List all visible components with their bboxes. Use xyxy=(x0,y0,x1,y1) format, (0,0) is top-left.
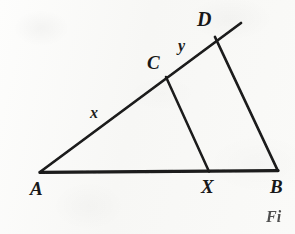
segment-length-label-x: x xyxy=(90,105,98,121)
segment-AD-ray xyxy=(40,23,241,172)
vertex-label-A: A xyxy=(30,179,43,198)
figure-line-art xyxy=(0,0,295,234)
geometry-figure-canvas: A B C D X x y Fi xyxy=(0,0,295,234)
segment-CX xyxy=(166,77,209,172)
vertex-label-D: D xyxy=(197,9,212,29)
segment-AB xyxy=(40,171,278,173)
segment-DB xyxy=(215,37,278,170)
vertex-label-B: B xyxy=(270,177,283,196)
figure-caption-fragment: Fi xyxy=(266,209,281,225)
vertex-label-C: C xyxy=(147,53,160,72)
vertex-label-X: X xyxy=(201,177,214,196)
segment-length-label-y: y xyxy=(178,38,185,54)
